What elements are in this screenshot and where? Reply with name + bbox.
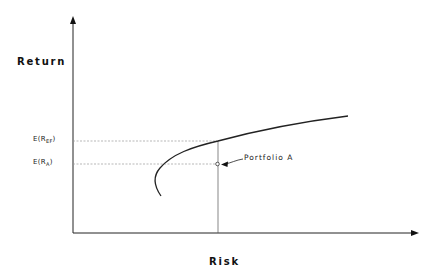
portfolio-a-point	[216, 162, 220, 166]
efficient-frontier-diagram	[0, 0, 433, 278]
y-axis-label: Return	[17, 56, 66, 67]
level-label-ef-suffix: )	[53, 135, 56, 143]
x-axis-arrow-icon	[411, 230, 419, 236]
level-label-a-suffix: )	[50, 158, 53, 166]
level-label-ef-prefix: E(R	[33, 135, 46, 143]
y-axis-arrow-icon	[70, 16, 76, 24]
level-label-a: E(RA)	[33, 158, 53, 167]
level-label-ef-subscript: EF	[46, 138, 53, 144]
x-axis-label: Risk	[209, 256, 240, 267]
portfolio-a-label: Portfolio A	[244, 153, 293, 162]
annotation-arrow-icon	[221, 162, 228, 168]
level-label-a-prefix: E(R	[33, 158, 46, 166]
level-label-ef: E(REF)	[33, 135, 56, 144]
